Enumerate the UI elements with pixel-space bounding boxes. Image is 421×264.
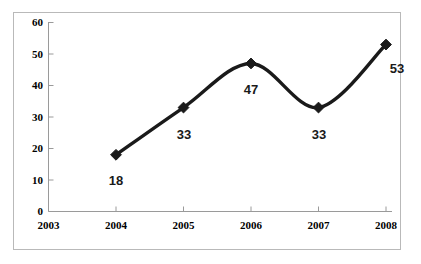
data-label-2008: 53 xyxy=(390,61,404,76)
y-axis-tick-label-20: 20 xyxy=(32,142,44,154)
y-axis-tick-label-30: 30 xyxy=(32,111,44,123)
y-axis-tick-label-10: 10 xyxy=(32,174,44,186)
x-axis-tick-label-2008: 2008 xyxy=(375,219,398,231)
y-axis-tick-label-0: 0 xyxy=(38,205,44,217)
y-axis-tick-label-40: 40 xyxy=(32,79,44,91)
data-label-2004: 18 xyxy=(109,173,123,188)
line-chart: 60 50 40 30 20 10 0 2003 2004 2005 2006 … xyxy=(0,0,421,264)
data-label-2006: 47 xyxy=(244,82,258,97)
x-axis-tick-label-2004: 2004 xyxy=(105,219,128,231)
x-axis-tick-label-2007: 2007 xyxy=(308,219,331,231)
series-marker-group xyxy=(111,39,392,160)
y-axis-tick-label-50: 50 xyxy=(32,48,44,60)
data-point-marker-2007 xyxy=(313,102,324,113)
y-axis-tick-label-60: 60 xyxy=(32,16,44,28)
data-point-marker-2006 xyxy=(246,58,257,69)
x-axis-tick-label-2003: 2003 xyxy=(38,219,61,231)
x-axis-tick-label-2006: 2006 xyxy=(240,219,263,231)
data-label-2005: 33 xyxy=(177,127,191,142)
x-axis-tick-label-2005: 2005 xyxy=(173,219,196,231)
data-label-2007: 33 xyxy=(312,127,326,142)
